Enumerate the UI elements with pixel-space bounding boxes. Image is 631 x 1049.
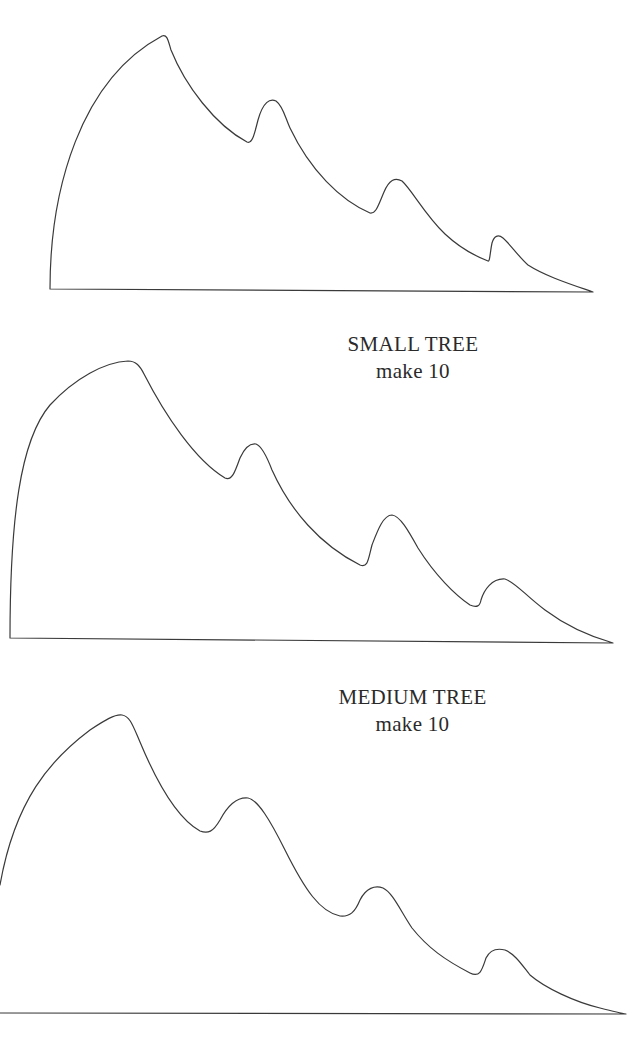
medium-tree-label: MEDIUM TREE make 10 — [305, 684, 520, 738]
medium-tree-quantity: make 10 — [305, 711, 520, 738]
small-tree-title: SMALL TREE — [318, 331, 508, 358]
small-tree-label: SMALL TREE make 10 — [318, 331, 508, 385]
large-tree-outline — [50, 36, 593, 292]
small-tree-outline — [10, 361, 613, 643]
tree-templates-canvas — [0, 0, 631, 1049]
medium-tree-outline — [0, 715, 626, 1014]
small-tree-quantity: make 10 — [318, 358, 508, 385]
medium-tree-title: MEDIUM TREE — [305, 684, 520, 711]
